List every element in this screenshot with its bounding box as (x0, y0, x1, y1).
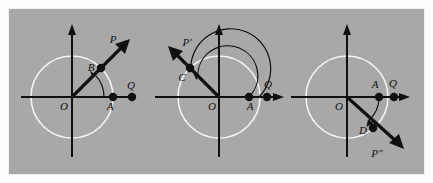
label-O: O (60, 100, 68, 112)
panel-3: Q A O D P″ (289, 9, 425, 175)
label-Q: Q (389, 77, 397, 89)
point-Q (128, 93, 136, 101)
label-O: O (208, 100, 216, 112)
label-P-double-prime: P″ (370, 147, 383, 159)
panel-1: P B Q A O (9, 9, 149, 175)
label-O: O (335, 100, 343, 112)
terminal-ray (347, 97, 397, 142)
point-Q (390, 93, 398, 101)
point-D (369, 124, 377, 132)
x-axis-arrowhead (399, 93, 410, 101)
y-axis-arrowhead (343, 24, 351, 35)
x-axis-arrowhead (273, 93, 284, 101)
label-C: C (178, 71, 186, 83)
label-P-prime: P′ (181, 36, 192, 48)
y-axis-arrowhead (68, 24, 76, 35)
label-P: P (109, 33, 117, 45)
figure-root: P B Q A O (0, 0, 433, 183)
label-B: B (88, 61, 95, 73)
label-A: A (106, 100, 114, 112)
label-Q: Q (264, 78, 272, 90)
point-C (186, 64, 194, 72)
label-A: A (246, 100, 254, 112)
angle-arc (95, 74, 104, 97)
angle-arc-inner (198, 46, 258, 97)
label-A: A (371, 78, 379, 90)
point-Q (263, 93, 271, 101)
terminal-ray (72, 46, 123, 97)
point-B (97, 64, 105, 72)
point-A (375, 93, 383, 101)
panel-2: P′ C Q A O (149, 9, 289, 175)
label-D: D (358, 124, 367, 136)
label-Q: Q (127, 79, 135, 91)
figure-frame: P B Q A O (8, 8, 425, 175)
